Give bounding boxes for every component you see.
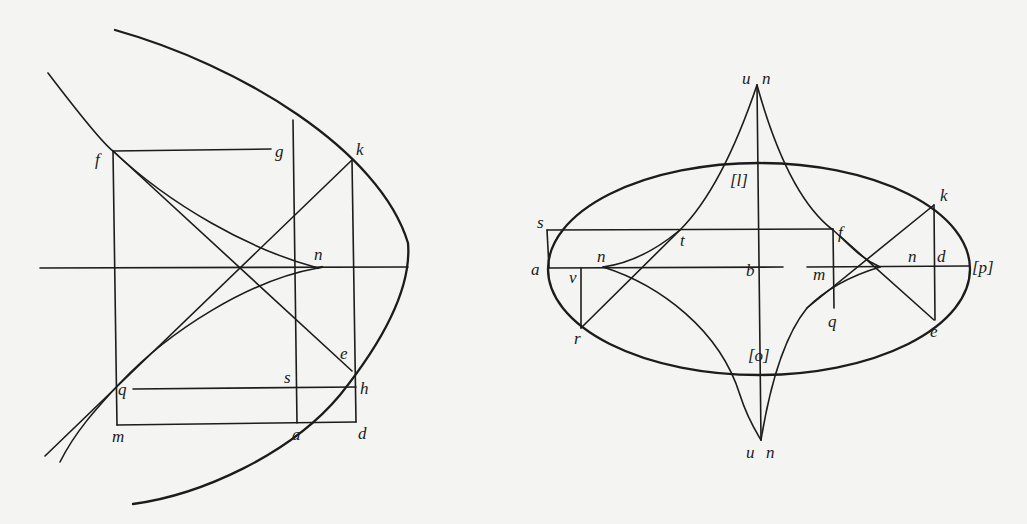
line-stf: [547, 229, 833, 230]
line-kd-vertical: [352, 160, 356, 422]
normal-kq: [45, 160, 352, 456]
label-m: m: [112, 427, 124, 446]
line-qh: [133, 387, 356, 389]
label-e: e: [340, 344, 348, 363]
line-md: [117, 422, 356, 425]
label-n-right: n: [908, 247, 917, 266]
left-figure: f g k n e s h q m a d: [40, 30, 408, 504]
label-a: a: [292, 425, 301, 444]
normal-fe: [840, 236, 934, 320]
right-figure: u n [l] s t f k a v n b m n d [p] r q e …: [531, 69, 994, 462]
label-u-bottom: u: [746, 443, 755, 462]
label-q: q: [828, 312, 837, 331]
parabola-axis: [40, 267, 408, 268]
normal-rt: [581, 230, 680, 328]
label-p: [p]: [972, 258, 994, 277]
label-n-left: n: [597, 247, 606, 266]
label-r: r: [574, 329, 581, 348]
evolute-arc-bottom-left: [603, 267, 761, 440]
line-fm-vertical: [113, 151, 117, 425]
minor-axis: [757, 85, 761, 440]
line-fmq: [833, 229, 834, 308]
label-t: t: [680, 231, 686, 250]
focus-tick: [318, 267, 322, 268]
label-g: g: [275, 142, 284, 161]
label-d: d: [937, 247, 946, 266]
label-o: [o]: [748, 346, 770, 365]
label-f: f: [95, 150, 102, 169]
label-u-top: u: [742, 69, 751, 88]
diagram-canvas: f g k n e s h q m a d: [0, 0, 1027, 524]
evolute-lower-branch: [60, 268, 318, 462]
label-l: [l]: [730, 171, 748, 190]
label-b: b: [746, 261, 755, 280]
label-v: v: [569, 268, 577, 287]
label-a: a: [531, 260, 540, 279]
label-s: s: [537, 213, 544, 232]
label-k: k: [940, 186, 948, 205]
label-e: e: [930, 322, 938, 341]
label-k: k: [356, 140, 364, 159]
label-q: q: [118, 380, 127, 399]
page-scan: f g k n e s h q m a d: [0, 0, 1027, 524]
evolute-arc-bottom-right: [761, 267, 880, 440]
line-gsa-vertical: [293, 120, 297, 423]
label-s: s: [284, 368, 291, 387]
major-axis-right: [807, 266, 969, 267]
line-kde: [934, 205, 935, 320]
label-n-top: n: [762, 69, 771, 88]
line-fg: [113, 149, 271, 151]
label-m: m: [813, 265, 825, 284]
label-d: d: [358, 424, 367, 443]
label-n: n: [314, 245, 323, 264]
label-n-bottom: n: [766, 443, 775, 462]
label-h: h: [360, 379, 369, 398]
